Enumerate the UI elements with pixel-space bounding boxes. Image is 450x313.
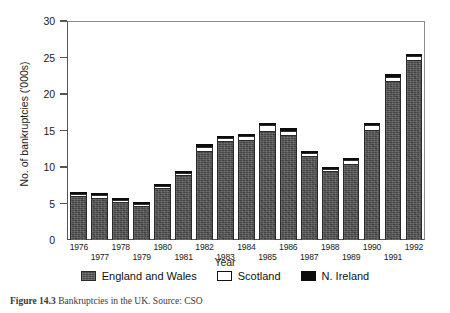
x-tick-label-1988: 1988 xyxy=(307,242,353,252)
bar-segment-england-wales xyxy=(343,164,360,240)
y-tick-25: 25 xyxy=(0,52,67,64)
legend-item-0[interactable]: England and Wales xyxy=(81,270,197,282)
y-tick-mark-10 xyxy=(60,166,67,167)
y-tick-label-30: 30 xyxy=(44,15,55,27)
x-tick-label-1976: 1976 xyxy=(56,242,102,252)
n-ireland-swatch xyxy=(301,271,316,281)
y-tick-label-15: 15 xyxy=(44,125,55,137)
legend-label-2: N. Ireland xyxy=(322,270,370,282)
bar-slot xyxy=(68,21,89,240)
y-tick-mark-20 xyxy=(60,93,67,94)
bar-segment-england-wales xyxy=(322,171,339,240)
y-tick-10: 10 xyxy=(0,161,67,173)
bar-segment-england-wales xyxy=(91,198,108,240)
x-axis-label: Year xyxy=(0,256,450,268)
legend-item-1[interactable]: Scotland xyxy=(217,270,281,282)
bar-1977[interactable] xyxy=(91,193,108,240)
bar-slot xyxy=(110,21,131,240)
bar-segment-england-wales xyxy=(364,130,381,240)
england-wales-swatch xyxy=(81,271,96,281)
bar-segment-england-wales xyxy=(196,151,213,240)
bar-segment-england-wales xyxy=(238,140,255,240)
bar-slot xyxy=(152,21,173,240)
bar-1983[interactable] xyxy=(217,136,234,240)
bar-1987[interactable] xyxy=(301,151,318,240)
bar-segment-england-wales xyxy=(301,156,318,240)
bar-segment-england-wales xyxy=(217,141,234,240)
bar-1982[interactable] xyxy=(196,144,213,240)
bar-1992[interactable] xyxy=(406,54,423,240)
y-tick-15: 15 xyxy=(0,125,67,137)
x-tick-label-1984: 1984 xyxy=(223,242,269,252)
y-tick-20: 20 xyxy=(0,88,67,100)
bar-slot xyxy=(131,21,152,240)
y-tick-mark-5 xyxy=(60,203,67,204)
legend-item-2[interactable]: N. Ireland xyxy=(301,270,370,282)
bar-group xyxy=(68,21,424,240)
bar-1981[interactable] xyxy=(175,171,192,240)
bar-1991[interactable] xyxy=(385,74,402,240)
bar-slot xyxy=(299,21,320,240)
bar-1988[interactable] xyxy=(322,167,339,240)
legend-label-0: England and Wales xyxy=(102,270,197,282)
bar-1984[interactable] xyxy=(238,134,255,240)
bar-1985[interactable] xyxy=(259,123,276,240)
y-tick-label-0: 0 xyxy=(49,234,55,246)
x-tick-label-1978: 1978 xyxy=(98,242,144,252)
figure-caption: Figure 14.3 Bankruptcies in the UK. Sour… xyxy=(10,296,440,306)
bar-1979[interactable] xyxy=(133,202,150,240)
bar-segment-england-wales xyxy=(259,131,276,241)
y-tick-30: 30 xyxy=(0,15,67,27)
bar-1980[interactable] xyxy=(154,184,171,240)
scotland-swatch xyxy=(217,271,232,281)
bar-slot xyxy=(362,21,383,240)
x-tick-label-1986: 1986 xyxy=(265,242,311,252)
bar-slot xyxy=(173,21,194,240)
bar-slot xyxy=(341,21,362,240)
bar-segment-england-wales xyxy=(280,135,297,240)
bar-slot xyxy=(215,21,236,240)
bar-segment-england-wales xyxy=(112,202,129,240)
bar-1976[interactable] xyxy=(70,192,87,240)
y-tick-5: 5 xyxy=(0,198,67,210)
x-tick-label-1982: 1982 xyxy=(182,242,228,252)
x-tick-label-1990: 1990 xyxy=(349,242,395,252)
bar-slot xyxy=(403,21,424,240)
figure-caption-text: Bankruptcies in the UK. Source: CSO xyxy=(58,296,203,306)
x-tick-label-1980: 1980 xyxy=(140,242,186,252)
bar-1986[interactable] xyxy=(280,128,297,240)
y-tick-label-5: 5 xyxy=(49,198,55,210)
bar-slot xyxy=(194,21,215,240)
chart-legend: England and WalesScotlandN. Ireland xyxy=(0,270,450,282)
bar-1989[interactable] xyxy=(343,158,360,240)
bar-1990[interactable] xyxy=(364,123,381,240)
y-tick-label-25: 25 xyxy=(44,52,55,64)
bar-slot xyxy=(89,21,110,240)
bar-segment-england-wales xyxy=(154,188,171,240)
bar-slot xyxy=(257,21,278,240)
bar-segment-england-wales xyxy=(175,175,192,240)
bar-slot xyxy=(278,21,299,240)
bar-slot xyxy=(236,21,257,240)
figure-caption-number: Figure 14.3 xyxy=(10,296,56,306)
y-tick-label-20: 20 xyxy=(44,88,55,100)
bar-segment-england-wales xyxy=(70,196,87,240)
bar-slot xyxy=(383,21,404,240)
bar-segment-england-wales xyxy=(406,60,423,240)
bar-segment-england-wales xyxy=(133,206,150,240)
y-tick-mark-25 xyxy=(60,57,67,58)
bar-slot xyxy=(320,21,341,240)
x-tick-label-1992: 1992 xyxy=(391,242,437,252)
y-tick-mark-30 xyxy=(60,20,67,21)
y-tick-label-10: 10 xyxy=(44,161,55,173)
y-tick-mark-15 xyxy=(60,130,67,131)
figure-bankruptcies: No. of bankruptcies ('000s) 30 25 20 15 … xyxy=(0,0,450,313)
bar-1978[interactable] xyxy=(112,198,129,240)
legend-label-1: Scotland xyxy=(238,270,281,282)
bar-segment-england-wales xyxy=(385,81,402,240)
